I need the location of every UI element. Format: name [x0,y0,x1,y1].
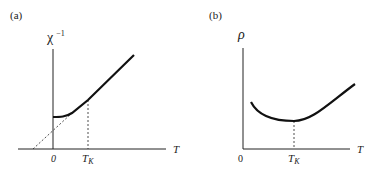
tick-zero: 0 [51,153,56,164]
tick-tk: TK [82,152,94,166]
y-axis-label-rho: ρ [237,27,245,42]
tick-tk: TK [288,152,300,166]
y-axis-label-chi: χ−1 [46,29,65,45]
x-axis-label-t: T [173,143,180,155]
resistivity-curve [251,84,355,121]
tick-zero: 0 [238,153,243,164]
x-axis-label-t: T [357,143,364,155]
kondo-diagram: (a) χ−1 T 0 TK (b) ρ T 0 TK [0,0,379,172]
panel-b-label: (b) [209,9,222,22]
panel-a-label: (a) [10,9,23,22]
panel-b: (b) ρ T 0 TK [209,9,364,166]
inverse-susceptibility-curve [53,55,134,117]
panel-a: (a) χ−1 T 0 TK [10,9,180,166]
